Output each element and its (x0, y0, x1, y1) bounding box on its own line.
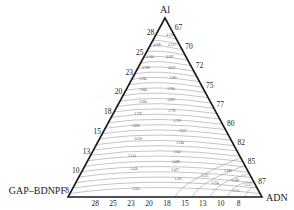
right-tick-label: 87 (258, 177, 266, 186)
bottom-tick-label: 15 (181, 199, 189, 208)
right-axis-ticks: 677072757780828587 (175, 23, 266, 186)
right-tick-label: 75 (206, 81, 214, 90)
left-tick-label: 28 (147, 28, 155, 37)
contour-line (91, 151, 240, 156)
contour-value-label: 3.151 (232, 189, 240, 193)
contour-value-label: 3.254 (211, 181, 219, 185)
contour-line (120, 98, 211, 103)
contour-line (85, 161, 246, 167)
contour-value-label: 3.826 (139, 100, 147, 104)
vertex-label-left: GAP–BDNPF (9, 185, 67, 196)
left-tick-label: 15 (93, 127, 101, 136)
contour-value-label: 3.427 (171, 168, 179, 172)
contour-labels: 4.1364.0884.1114.0444.0673.9984.0213.945… (128, 33, 252, 193)
contour-value-label: 3.594 (176, 141, 184, 145)
contour-value-label: 4.067 (166, 55, 174, 59)
left-tick-label: 8 (65, 186, 69, 195)
bottom-tick-label: 28 (91, 199, 99, 208)
ternary-diagram: 4.1364.0884.1114.0444.0673.9984.0213.945… (0, 0, 294, 210)
right-tick-label: 77 (217, 100, 225, 109)
vertex-label-right: ADN (266, 192, 288, 203)
contour-value-label: 3.859 (167, 98, 175, 102)
contour-value-label: 3.189 (231, 179, 239, 183)
contour-value-label: 3.945 (139, 77, 147, 81)
right-tick-label: 82 (237, 138, 245, 147)
bottom-tick-label: 23 (127, 199, 135, 208)
contour-line (102, 130, 228, 135)
bottom-tick-label: 13 (199, 199, 207, 208)
contour-value-label: 3.637 (179, 129, 187, 133)
contour-line (94, 146, 238, 151)
contour-line (123, 93, 208, 98)
bottom-tick-label: 20 (145, 199, 153, 208)
contour-line (126, 88, 205, 92)
bottom-tick-label: 18 (163, 199, 171, 208)
contour-value-label: 3.283 (224, 169, 232, 173)
contour-value-label: 4.111 (168, 43, 176, 47)
contour-line (114, 109, 217, 114)
contour-value-label: 3.488 (172, 160, 180, 164)
contour-value-label: 3.693 (132, 124, 140, 128)
left-tick-label: 10 (72, 166, 80, 175)
contour-value-label: 3.791 (168, 109, 176, 113)
right-tick-label: 85 (248, 157, 256, 166)
contour-line (108, 119, 222, 124)
contour-value-label: 3.998 (142, 66, 150, 70)
contour-value-label: 4.088 (153, 43, 161, 47)
contour-value-label: 3.363 (132, 187, 140, 191)
bottom-tick-label: 25 (109, 199, 117, 208)
contour-value-label: 3.729 (173, 119, 181, 123)
bottom-tick-label: 10 (217, 199, 225, 208)
contour-value-label: 3.112 (244, 183, 252, 187)
contour-line (135, 72, 197, 76)
contour-value-label: 4.021 (168, 66, 176, 70)
right-tick-label: 72 (196, 61, 204, 70)
contour-line (105, 125, 225, 130)
contour-value-label: 3.365 (174, 177, 182, 181)
contour-value-label: 3.436 (130, 167, 138, 171)
contour-value-label: 3.983 (169, 76, 177, 80)
right-tick-label: 80 (227, 119, 235, 128)
contour-line (96, 140, 234, 145)
contour-value-label: 4.044 (146, 55, 154, 59)
contour-value-label: 3.904 (167, 87, 175, 91)
contour-line (76, 177, 255, 183)
contour-line (129, 83, 203, 87)
contour-value-label: 3.543 (173, 150, 181, 154)
left-tick-label: 18 (104, 107, 112, 116)
contour-line (117, 104, 214, 109)
contour-line (111, 114, 220, 119)
left-tick-label: 25 (136, 48, 144, 57)
bottom-axis-ticks: 28252320181513108 (91, 199, 240, 208)
right-tick-label: 70 (185, 42, 193, 51)
contour-value-label: 3.759 (134, 112, 142, 116)
contour-value-label: 3.321 (201, 174, 209, 178)
left-tick-label: 13 (83, 147, 91, 156)
vertex-label-top: Al (160, 4, 170, 15)
contour-value-label: 3.514 (128, 154, 136, 158)
contour-value-label: 3.618 (134, 137, 142, 141)
contour-value-label: 3.884 (139, 88, 147, 92)
right-tick-label: 67 (175, 23, 183, 32)
contour-line (88, 156, 243, 162)
bottom-tick-label: 8 (237, 199, 241, 208)
contour-line (99, 135, 231, 140)
left-tick-label: 20 (115, 87, 123, 96)
left-tick-label: 23 (125, 68, 133, 77)
